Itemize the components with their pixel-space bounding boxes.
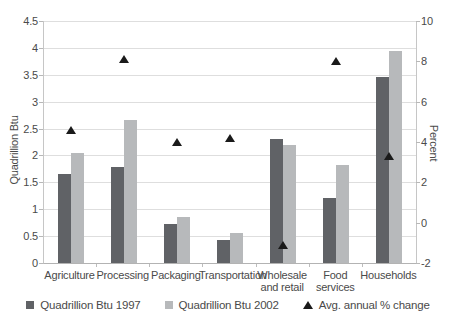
marker-pct-change-food-services: [331, 57, 341, 65]
left-axis-tickmark: [39, 236, 43, 237]
bar-btu-1997-processing: [111, 167, 124, 263]
right-axis-tick: 0: [421, 217, 445, 229]
x-axis-tickmark: [96, 264, 97, 267]
legend-swatch-2002-icon: [165, 301, 173, 309]
gridline: [44, 48, 416, 49]
gridline: [44, 182, 416, 183]
x-axis-tickmark: [202, 264, 203, 267]
category-label-wholesale-and-retail: Wholesale and retail: [252, 269, 312, 293]
left-axis-tick: 1.5: [8, 176, 38, 188]
x-axis-tickmark: [149, 264, 150, 267]
legend-item-pct-change: Avg. annual % change: [303, 299, 430, 311]
right-axis-tickmark: [416, 61, 420, 62]
marker-pct-change-processing: [119, 55, 129, 63]
right-axis-tick: 10: [421, 15, 445, 27]
legend-item-btu-1997: Quadrillion Btu 1997: [26, 299, 140, 311]
marker-pct-change-transportation: [225, 134, 235, 142]
left-axis-tickmark: [39, 102, 43, 103]
category-label-transportation: Transportation: [199, 269, 259, 281]
legend: Quadrillion Btu 1997 Quadrillion Btu 200…: [0, 299, 456, 311]
legend-swatch-1997-icon: [26, 301, 34, 309]
left-axis-tickmark: [39, 209, 43, 210]
left-axis-tickmark: [39, 75, 43, 76]
left-axis-tick: 3.5: [8, 69, 38, 81]
energy-use-chart: Quadrillion Btu Percent Quadrillion Btu …: [0, 0, 456, 331]
category-label-processing: Processing: [93, 269, 153, 281]
left-axis-tick: 0: [8, 257, 38, 269]
category-label-food-services: Food services: [305, 269, 365, 293]
gridline: [44, 129, 416, 130]
category-label-households: Households: [358, 269, 418, 281]
left-axis-tickmark: [39, 21, 43, 22]
bar-btu-2002-agriculture: [71, 153, 84, 263]
right-axis-tickmark: [416, 102, 420, 103]
right-axis-tickmark: [416, 21, 420, 22]
bar-btu-1997-packaging: [164, 224, 177, 263]
bar-btu-2002-transportation: [230, 233, 243, 263]
legend-triangle-icon: [303, 301, 313, 309]
right-axis-tick: 4: [421, 136, 445, 148]
gridline: [44, 155, 416, 156]
left-axis-tick: 4: [8, 42, 38, 54]
bar-btu-1997-transportation: [217, 240, 230, 263]
left-axis-tick: 3: [8, 96, 38, 108]
bar-btu-1997-households: [376, 77, 389, 263]
bar-btu-1997-food-services: [323, 198, 336, 263]
x-axis-tickmark: [362, 264, 363, 267]
left-axis-tickmark: [39, 182, 43, 183]
left-axis-tick: 2.5: [8, 123, 38, 135]
right-axis-tickmark: [416, 223, 420, 224]
left-axis-tickmark: [39, 263, 43, 264]
gridline: [44, 102, 416, 103]
marker-pct-change-households: [384, 152, 394, 160]
legend-label-pct-change: Avg. annual % change: [319, 299, 430, 311]
gridline: [44, 209, 416, 210]
category-label-packaging: Packaging: [146, 269, 206, 281]
left-axis-tick: 1: [8, 203, 38, 215]
right-axis-tickmark: [416, 142, 420, 143]
gridline: [44, 21, 416, 22]
right-axis-tick: 2: [421, 176, 445, 188]
legend-item-btu-2002: Quadrillion Btu 2002: [165, 299, 279, 311]
left-axis-tick: 0.5: [8, 230, 38, 242]
gridline: [44, 75, 416, 76]
plot-area: [43, 21, 417, 264]
right-axis-tickmark: [416, 263, 420, 264]
right-axis-tick: 8: [421, 55, 445, 67]
legend-label-btu-2002: Quadrillion Btu 2002: [179, 299, 279, 311]
right-axis-tick: 6: [421, 96, 445, 108]
bar-btu-2002-food-services: [336, 165, 349, 263]
left-axis-tickmark: [39, 48, 43, 49]
marker-pct-change-wholesale-and-retail: [278, 241, 288, 249]
legend-label-btu-1997: Quadrillion Btu 1997: [40, 299, 140, 311]
bar-btu-2002-packaging: [177, 217, 190, 263]
marker-pct-change-agriculture: [66, 126, 76, 134]
x-axis-tickmark: [256, 264, 257, 267]
x-axis-tickmark: [309, 264, 310, 267]
right-axis-tick: -2: [421, 257, 445, 269]
left-axis-tickmark: [39, 155, 43, 156]
right-axis-tickmark: [416, 182, 420, 183]
category-label-agriculture: Agriculture: [40, 269, 100, 281]
marker-pct-change-packaging: [172, 138, 182, 146]
left-axis-tick: 4.5: [8, 15, 38, 27]
bar-btu-1997-agriculture: [58, 174, 71, 263]
bar-btu-2002-processing: [124, 120, 137, 263]
left-axis-tick: 2: [8, 149, 38, 161]
left-axis-tickmark: [39, 129, 43, 130]
